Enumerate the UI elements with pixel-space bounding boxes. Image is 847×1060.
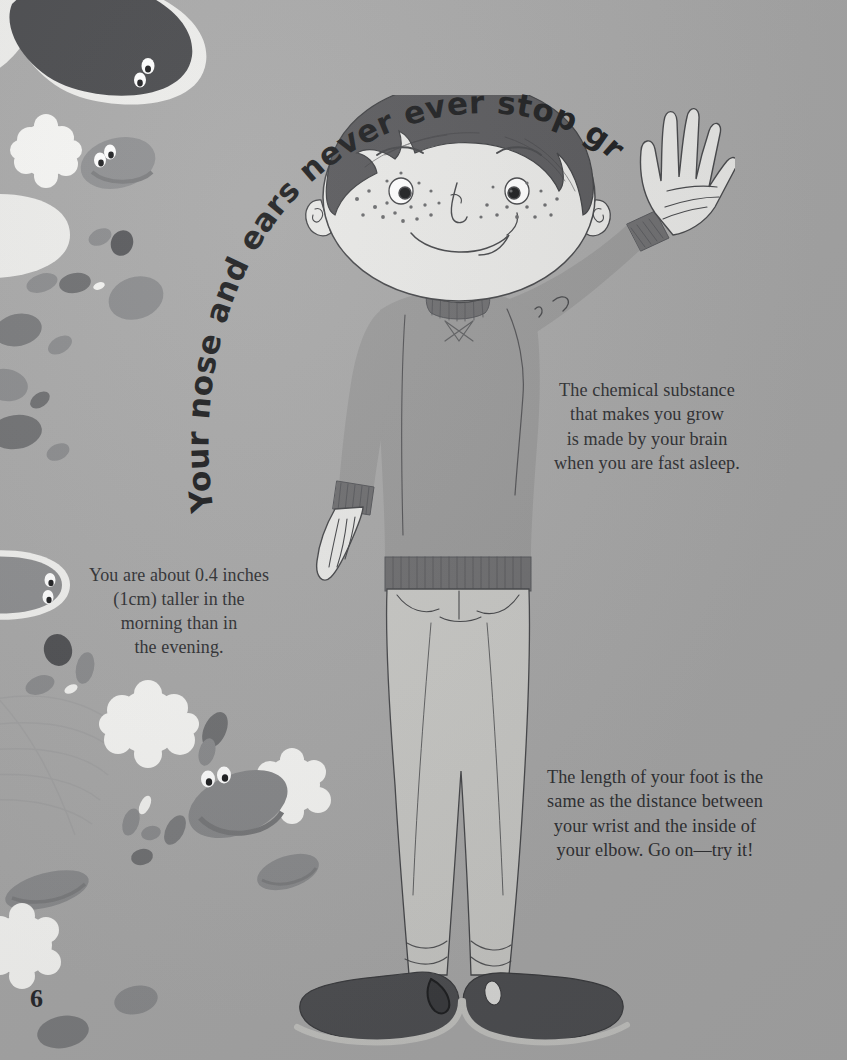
white-blob-left bbox=[0, 194, 70, 278]
shoe-left bbox=[297, 972, 461, 1042]
fluff-cluster-2 bbox=[99, 680, 199, 768]
sweater-hem bbox=[385, 557, 531, 591]
leaf-vein-texture bbox=[0, 690, 112, 835]
fluff-cluster-1 bbox=[10, 114, 82, 188]
fact-text-foot: The length of your foot is the same as t… bbox=[495, 765, 815, 863]
headline-arc: Your nose and ears never ever stop growi… bbox=[120, 55, 640, 555]
shoe-right bbox=[463, 973, 627, 1043]
fluff-cluster-4 bbox=[0, 903, 61, 989]
book-page: Your nose and ears never ever stop growi… bbox=[0, 0, 847, 1060]
page-number: 6 bbox=[30, 984, 43, 1014]
fact-text-brain: The chemical substance that makes you gr… bbox=[497, 378, 797, 476]
fact-text-morning: You are about 0.4 inches (1cm) taller in… bbox=[45, 563, 313, 659]
